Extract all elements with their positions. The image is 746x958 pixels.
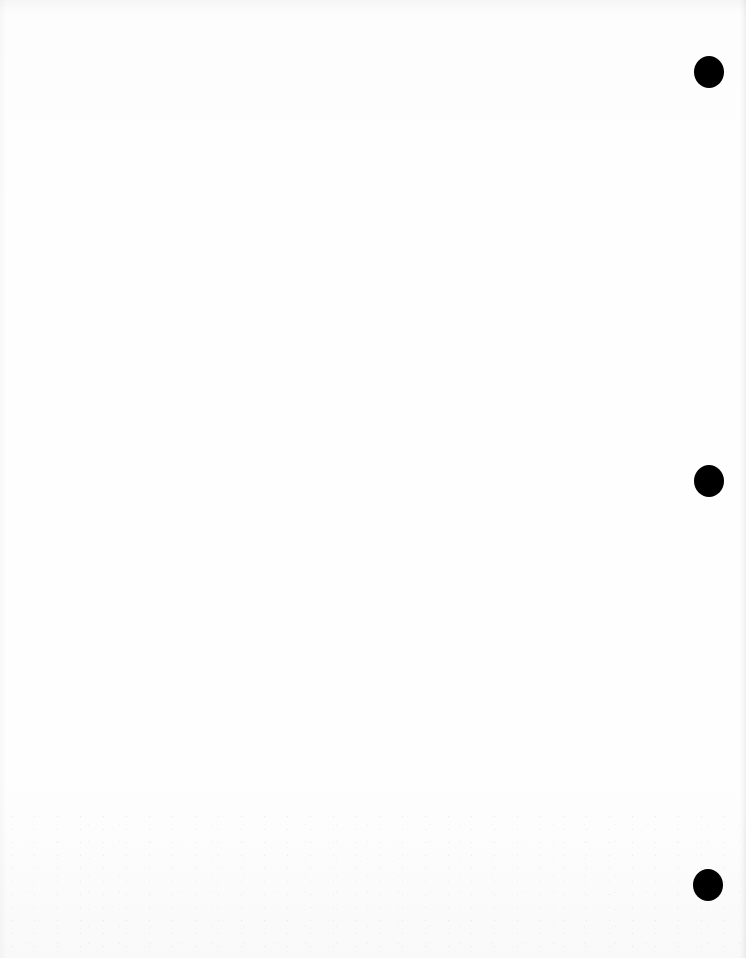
paper-edge-shadow	[740, 0, 746, 958]
punch-hole-top	[694, 56, 724, 88]
paper-texture	[0, 810, 746, 958]
punch-hole-bottom	[693, 869, 723, 901]
punch-hole-middle	[694, 465, 724, 497]
blank-paper-sheet	[0, 0, 746, 958]
